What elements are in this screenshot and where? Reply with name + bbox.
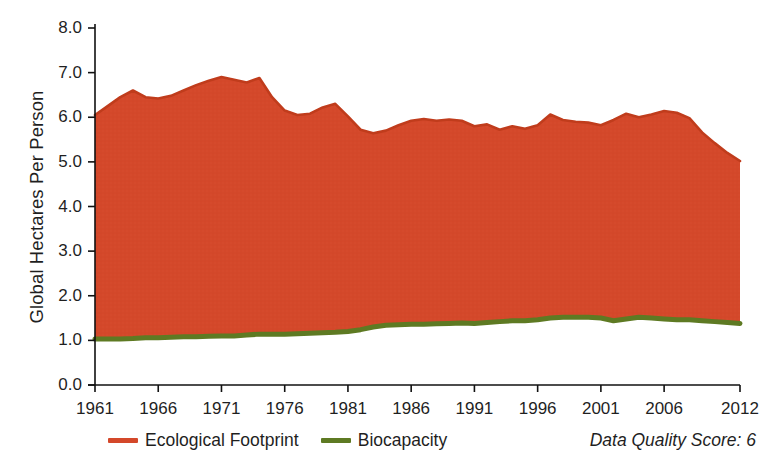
y-tick-label: 7.0 xyxy=(36,64,82,81)
x-tick-label: 1986 xyxy=(392,399,430,419)
x-tick-label: 1991 xyxy=(455,399,493,419)
x-tick-label: 1961 xyxy=(76,399,114,419)
y-tick-label: 2.0 xyxy=(36,287,82,304)
x-tick-label: 2001 xyxy=(582,399,620,419)
x-tick-label: 1976 xyxy=(266,399,304,419)
x-tick-label: 2012 xyxy=(721,399,759,419)
chart-legend: Ecological Footprint Biocapacity xyxy=(108,430,460,451)
y-axis-tick-labels: 8.07.06.05.04.03.02.01.00.0 xyxy=(30,0,82,468)
data-quality-score: Data Quality Score: 6 xyxy=(590,430,756,451)
y-tick-label: 0.0 xyxy=(36,376,82,393)
legend-item-biocapacity[interactable]: Biocapacity xyxy=(321,430,448,451)
y-tick-label: 8.0 xyxy=(36,19,82,36)
x-tick-label: 2006 xyxy=(645,399,683,419)
legend-label-biocapacity: Biocapacity xyxy=(358,430,448,451)
y-tick-label: 6.0 xyxy=(36,108,82,125)
x-tick-label: 1971 xyxy=(203,399,241,419)
legend-swatch-icon-biocapacity xyxy=(321,438,351,443)
x-tick-label: 1981 xyxy=(329,399,367,419)
x-tick-label: 1996 xyxy=(519,399,557,419)
y-tick-label: 1.0 xyxy=(36,331,82,348)
y-tick-label: 5.0 xyxy=(36,153,82,170)
y-tick-label: 3.0 xyxy=(36,242,82,259)
chart-container: Global Hectares Per Person 8.07.06.05.04… xyxy=(0,0,770,468)
legend-item-ecological-footprint[interactable]: Ecological Footprint xyxy=(108,430,299,451)
y-tick-label: 4.0 xyxy=(36,198,82,215)
series-layer xyxy=(95,77,740,339)
legend-label-ecological-footprint: Ecological Footprint xyxy=(145,430,299,451)
x-tick-label: 1966 xyxy=(139,399,177,419)
legend-swatch-icon-ecological-footprint xyxy=(108,438,138,443)
plot-area xyxy=(0,0,770,468)
